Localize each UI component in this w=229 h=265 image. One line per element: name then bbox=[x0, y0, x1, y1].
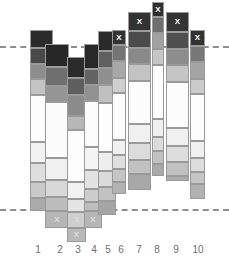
x-axis-labels: 12345678910 bbox=[0, 240, 229, 265]
bar-10[interactable]: X bbox=[190, 0, 205, 240]
segment-marker-x: X bbox=[74, 216, 79, 224]
bar-8-segment-3[interactable] bbox=[152, 33, 164, 49]
bar-10-segment-9[interactable] bbox=[190, 184, 205, 199]
bar-2-segment-6[interactable] bbox=[45, 180, 69, 197]
segment-marker-x: X bbox=[155, 6, 160, 14]
bar-6-segment-3[interactable] bbox=[112, 61, 126, 78]
bar-6-segment-4[interactable] bbox=[112, 78, 126, 93]
bar-10-segment-8[interactable] bbox=[190, 172, 205, 184]
bar-9-segment-8[interactable] bbox=[166, 162, 189, 176]
x-tick-label-6: 6 bbox=[118, 244, 124, 255]
bar-7-segment-8[interactable] bbox=[128, 160, 151, 174]
bar-10-segment-1[interactable]: X bbox=[190, 30, 205, 46]
x-tick-label-10: 10 bbox=[192, 244, 203, 255]
bar-6-segment-5[interactable] bbox=[112, 93, 126, 140]
bar-8-segment-6[interactable] bbox=[152, 119, 164, 137]
bar-6-segment-7[interactable] bbox=[112, 155, 126, 169]
bar-9-segment-2[interactable] bbox=[166, 32, 189, 49]
bar-9-segment-1[interactable]: X bbox=[166, 12, 189, 32]
bar-6-segment-8[interactable] bbox=[112, 169, 126, 182]
bar-2-segment-7[interactable] bbox=[45, 197, 69, 211]
x-tick-label-9: 9 bbox=[173, 244, 179, 255]
bar-2-segment-1[interactable] bbox=[45, 44, 69, 67]
bar-7-segment-9[interactable] bbox=[128, 174, 151, 190]
bar-10-segment-3[interactable] bbox=[190, 62, 205, 79]
bar-8-segment-1[interactable]: X bbox=[152, 2, 164, 17]
bar-6-segment-6[interactable] bbox=[112, 140, 126, 155]
bar-10-segment-2[interactable] bbox=[190, 46, 205, 62]
bar-6-segment-1[interactable]: X bbox=[112, 30, 126, 45]
bar-8-segment-8[interactable] bbox=[152, 151, 164, 164]
bar-7-segment-5[interactable] bbox=[128, 81, 151, 124]
bar-7-segment-2[interactable] bbox=[128, 31, 151, 48]
bar-10-segment-7[interactable] bbox=[190, 158, 205, 172]
bar-8-segment-4[interactable] bbox=[152, 49, 164, 65]
bar-9-segment-5[interactable] bbox=[166, 82, 189, 128]
bar-10-segment-5[interactable] bbox=[190, 94, 205, 141]
x-tick-label-3: 3 bbox=[75, 244, 81, 255]
bar-6-segment-2[interactable] bbox=[112, 45, 126, 61]
x-tick-label-2: 2 bbox=[57, 244, 63, 255]
bar-9-segment-3[interactable] bbox=[166, 49, 189, 65]
bar-7-segment-3[interactable] bbox=[128, 48, 151, 64]
x-tick-label-4: 4 bbox=[91, 244, 97, 255]
stacked-bar-chart: XXXXXXXXX 12345678910 bbox=[0, 0, 229, 265]
x-tick-label-7: 7 bbox=[136, 244, 142, 255]
bar-8-segment-9[interactable] bbox=[152, 164, 164, 176]
bar-8-segment-2[interactable] bbox=[152, 17, 164, 33]
bar-9-segment-4[interactable] bbox=[166, 65, 189, 82]
bar-8-segment-5[interactable] bbox=[152, 65, 164, 119]
plot-area: XXXXXXXXX bbox=[0, 0, 229, 240]
bar-9-segment-9[interactable] bbox=[166, 176, 189, 181]
bar-9-segment-7[interactable] bbox=[166, 146, 189, 162]
segment-marker-x: X bbox=[54, 216, 59, 224]
bar-2-segment-4[interactable] bbox=[45, 102, 69, 158]
bar-10-segment-6[interactable] bbox=[190, 141, 205, 158]
segment-marker-x: X bbox=[137, 18, 142, 26]
bar-9[interactable]: X bbox=[166, 0, 189, 240]
bar-2[interactable]: X bbox=[45, 0, 69, 240]
bar-2-segment-5[interactable] bbox=[45, 158, 69, 180]
bar-6[interactable]: X bbox=[112, 0, 126, 240]
segment-marker-x: X bbox=[90, 216, 95, 224]
bar-7[interactable]: X bbox=[128, 0, 151, 240]
bar-7-segment-6[interactable] bbox=[128, 124, 151, 143]
bar-10-segment-4[interactable] bbox=[190, 79, 205, 94]
bar-8-segment-7[interactable] bbox=[152, 137, 164, 151]
x-tick-label-1: 1 bbox=[35, 244, 41, 255]
bar-2-segment-2[interactable] bbox=[45, 67, 69, 86]
bar-7-segment-7[interactable] bbox=[128, 143, 151, 160]
bar-6-segment-9[interactable] bbox=[112, 182, 126, 194]
segment-marker-x: X bbox=[175, 18, 180, 26]
bar-8[interactable]: X bbox=[152, 0, 164, 240]
bar-7-segment-1[interactable]: X bbox=[128, 12, 151, 31]
bar-9-segment-6[interactable] bbox=[166, 128, 189, 146]
bar-2-segment-8[interactable]: X bbox=[45, 211, 69, 228]
segment-marker-x: X bbox=[195, 34, 200, 42]
x-tick-label-8: 8 bbox=[154, 244, 160, 255]
segment-marker-x: X bbox=[116, 34, 121, 42]
segment-marker-x: X bbox=[74, 231, 79, 239]
bar-2-segment-3[interactable] bbox=[45, 86, 69, 102]
x-tick-label-5: 5 bbox=[105, 244, 111, 255]
bar-7-segment-4[interactable] bbox=[128, 64, 151, 81]
